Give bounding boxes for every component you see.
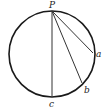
label-P: P — [48, 0, 56, 10]
circle-chords-diagram: P a b c — [0, 0, 111, 111]
label-c: c — [49, 99, 54, 109]
chord-P-a — [52, 11, 93, 53]
label-a: a — [96, 49, 101, 59]
chord-P-b — [52, 11, 82, 83]
label-b: b — [84, 85, 90, 95]
